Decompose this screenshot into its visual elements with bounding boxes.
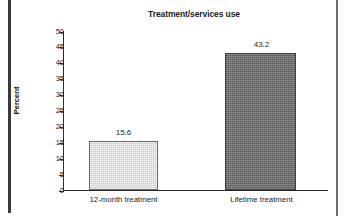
x-axis-label-lifetime-treatment: Lifetime treatment	[226, 196, 297, 204]
y-tick-mark-40	[59, 63, 64, 64]
y-tick-mark-5	[59, 175, 64, 176]
y-tick-mark-20	[59, 127, 64, 128]
y-axis-title: Percent	[12, 73, 21, 129]
chart-screenshot: Treatment/services use Percent 50 45 40 …	[0, 0, 345, 216]
bar-lifetime-treatment[interactable]	[225, 53, 296, 190]
bar-chart-figure: Treatment/services use Percent 50 45 40 …	[0, 0, 345, 216]
y-tick-mark-15	[59, 143, 64, 144]
y-tick-mark-30	[59, 95, 64, 96]
bar-value-lifetime-treatment: 43.2	[226, 41, 297, 49]
y-tick-mark-50	[59, 32, 64, 33]
bar-12-month-treatment[interactable]	[89, 141, 158, 191]
y-tick-mark-10	[59, 159, 64, 160]
y-tick-mark-35	[59, 79, 64, 80]
x-axis-label-12-month-treatment: 12-month treatment	[89, 196, 158, 204]
y-tick-mark-0	[59, 191, 64, 192]
y-tick-mark-25	[59, 111, 64, 112]
chart-title: Treatment/services use	[60, 9, 328, 19]
y-tick-mark-45	[59, 47, 64, 48]
bar-value-12-month-treatment: 15.6	[89, 129, 158, 137]
